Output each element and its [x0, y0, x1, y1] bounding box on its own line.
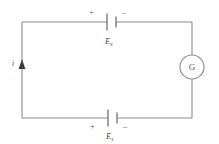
bottom-cell-plus-sign: + — [90, 122, 95, 131]
bottom-cell-emf-label: Es — [106, 132, 113, 141]
top-cell-plus-sign: + — [89, 8, 94, 17]
circuit-diagram-figure: + – Ex + – Es i G — [0, 0, 219, 144]
top-cell-minus-sign: – — [122, 8, 126, 17]
current-arrow-icon — [19, 59, 26, 69]
top-cell-emf-subscript: x — [110, 41, 112, 47]
top-cell-emf-label: Ex — [105, 37, 113, 46]
galvanometer-label: G — [180, 62, 204, 72]
circuit-schematic-canvas — [0, 0, 219, 144]
bottom-cell-minus-sign: – — [123, 122, 127, 131]
current-label: i — [12, 60, 14, 68]
